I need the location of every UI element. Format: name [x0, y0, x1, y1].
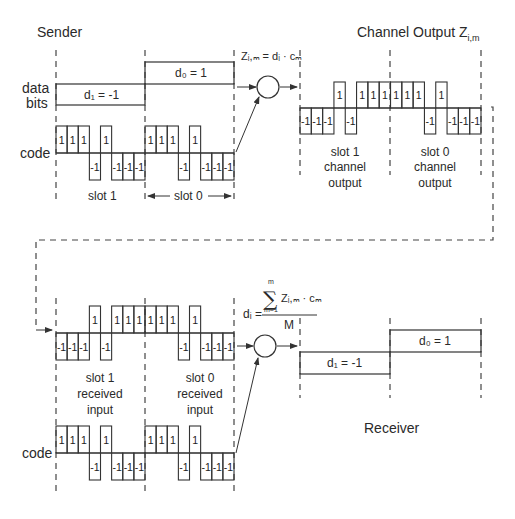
chip-value: -1 [57, 341, 66, 353]
chip-value: 1 [59, 434, 65, 446]
chip-value: -1 [346, 115, 355, 127]
chip-value: 1 [159, 134, 165, 146]
receiver-title: Receiver [364, 420, 420, 436]
chip-value: 1 [416, 89, 422, 101]
svg-text:output: output [418, 176, 452, 190]
chip-value: -1 [425, 115, 434, 127]
chip-value: -1 [202, 161, 211, 173]
slot1-channel-label: slot 1 channel output [324, 145, 366, 190]
svg-text:input: input [187, 403, 214, 417]
multiplier-circle-receiver [254, 335, 276, 357]
chip-value: -1 [179, 161, 188, 173]
chip-value: 1 [114, 314, 120, 326]
receiver-d1-label: d₁ = -1 [327, 356, 362, 370]
chip-value: -1 [224, 161, 233, 173]
chip-value: -1 [79, 341, 88, 353]
slot1-label: slot 1 [88, 189, 117, 203]
channel-slot-dividers [300, 50, 481, 175]
svg-text:slot 1: slot 1 [86, 371, 115, 385]
slot0-label: slot 0 [174, 189, 203, 203]
chip-value: 1 [170, 134, 176, 146]
chip-value: 1 [148, 434, 154, 446]
chip-value: 1 [359, 89, 365, 101]
chip-value: -1 [101, 341, 110, 353]
svg-text:received: received [77, 387, 122, 401]
chip-value: -1 [202, 461, 211, 473]
cdma-diagram: Sender Channel Output Zi,m data bits d₁ … [0, 0, 515, 519]
chip-value: -1 [179, 341, 188, 353]
chip-value: 1 [192, 434, 198, 446]
chip-value: -1 [68, 341, 77, 353]
chip-value: -1 [124, 461, 133, 473]
chip-value: -1 [301, 115, 310, 127]
chip-value: -1 [224, 341, 233, 353]
svg-text:slot 0: slot 0 [421, 145, 450, 159]
chip-value: 1 [59, 134, 65, 146]
svg-text:m=1: m=1 [264, 306, 278, 313]
svg-text:input: input [87, 403, 114, 417]
chip-value: -1 [471, 115, 480, 127]
arrow-code-to-receiver-mult [236, 358, 258, 453]
chip-value: -1 [135, 161, 144, 173]
chip-value: 1 [103, 434, 109, 446]
chip-value: 1 [405, 89, 411, 101]
chip-value: 1 [438, 89, 444, 101]
chip-value: 1 [170, 314, 176, 326]
sender-title: Sender [37, 24, 82, 40]
chip-value: 1 [159, 314, 165, 326]
chip-value: 1 [148, 314, 154, 326]
arrow-code-to-mult [236, 97, 259, 152]
chip-value: -1 [448, 115, 457, 127]
receiver-code-waveform: 111-11-1-1-1111-11-1-1-1 [56, 426, 234, 480]
chip-value: 1 [393, 89, 399, 101]
svg-text:M: M [284, 318, 294, 332]
received-input-waveform: -1-1-11-1111111-11-1-1-1 [56, 306, 234, 360]
code-label-top: code [20, 145, 51, 161]
chip-value: 1 [137, 314, 143, 326]
chip-value: -1 [324, 115, 333, 127]
svg-text:m: m [268, 278, 274, 285]
chip-value: 1 [103, 134, 109, 146]
svg-text:slot 1: slot 1 [331, 145, 360, 159]
multiplier-circle-sender [257, 76, 279, 98]
chip-value: 1 [81, 434, 87, 446]
chip-value: 1 [148, 134, 154, 146]
chip-value: -1 [90, 161, 99, 173]
slot0-received-label: slot 0 received input [177, 371, 222, 417]
svg-text:Zᵢ,ₘ · cₘ: Zᵢ,ₘ · cₘ [281, 292, 322, 304]
chip-value: -1 [179, 461, 188, 473]
code-label-bottom: code [22, 445, 53, 461]
svg-text:channel: channel [324, 160, 366, 174]
chip-value: -1 [124, 161, 133, 173]
chip-value: -1 [202, 341, 211, 353]
chip-value: 1 [337, 89, 343, 101]
data-bits-label-1: data [22, 80, 49, 96]
slot1-received-label: slot 1 received input [77, 371, 122, 417]
sender-d1-label: d₁ = -1 [84, 88, 119, 102]
chip-value: 1 [192, 134, 198, 146]
chip-value: 1 [170, 434, 176, 446]
chip-value: -1 [459, 115, 468, 127]
chip-value: -1 [213, 341, 222, 353]
chip-value: -1 [113, 461, 122, 473]
sender-d0-label: d₀ = 1 [175, 66, 207, 80]
chip-value: 1 [192, 314, 198, 326]
chip-value: 1 [70, 134, 76, 146]
data-bits-label-2: bits [26, 95, 48, 111]
sender-code-waveform: 111-11-1-1-1111-11-1-1-1 [56, 126, 234, 180]
channel-output-title: Channel Output Zi,m [357, 24, 480, 43]
svg-text:slot 0: slot 0 [186, 371, 215, 385]
chip-value: -1 [213, 161, 222, 173]
chip-value: -1 [312, 115, 321, 127]
svg-text:dᵢ =: dᵢ = [243, 307, 262, 321]
svg-text:channel: channel [414, 160, 456, 174]
chip-value: 1 [371, 89, 377, 101]
slot0-channel-label: slot 0 channel output [414, 145, 456, 190]
receiver-d0-label: d₀ = 1 [419, 334, 451, 348]
svg-text:output: output [328, 176, 362, 190]
chip-value: 1 [159, 434, 165, 446]
chip-value: 1 [382, 89, 388, 101]
encode-formula: Zᵢ,ₘ = dᵢ · cₘ [241, 50, 302, 62]
chip-value: -1 [213, 461, 222, 473]
decode-formula: dᵢ = ∑ m m=1 Zᵢ,ₘ · cₘ M [243, 278, 322, 332]
